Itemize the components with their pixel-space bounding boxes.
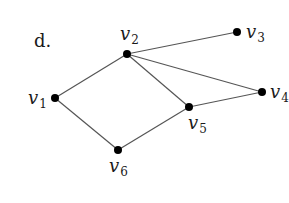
node-label-v3: v3 [246, 21, 265, 45]
edge-v2-v3 [127, 32, 237, 54]
edge-v2-v5 [127, 54, 189, 107]
edge-v5-v4 [189, 92, 262, 107]
node-label-v1: v1 [28, 87, 47, 111]
edge-v2-v4 [127, 54, 262, 92]
node-v3 [233, 28, 241, 36]
edge-v5-v6 [118, 107, 189, 150]
edges-group [55, 32, 262, 150]
node-v4 [258, 88, 266, 96]
nodes-group [51, 28, 266, 154]
node-label-v6: v6 [109, 155, 128, 179]
node-label-v2: v2 [120, 23, 139, 47]
node-v6 [114, 146, 122, 154]
edge-v1-v2 [55, 54, 127, 98]
node-label-v4: v4 [270, 81, 289, 105]
node-v5 [185, 103, 193, 111]
node-v1 [51, 94, 59, 102]
node-v2 [123, 50, 131, 58]
node-label-v5: v5 [188, 112, 207, 136]
labels-group: v1v2v3v4v5v6 [28, 21, 289, 179]
edge-v1-v6 [55, 98, 118, 150]
graph-diagram: v1v2v3v4v5v6 [0, 0, 289, 203]
